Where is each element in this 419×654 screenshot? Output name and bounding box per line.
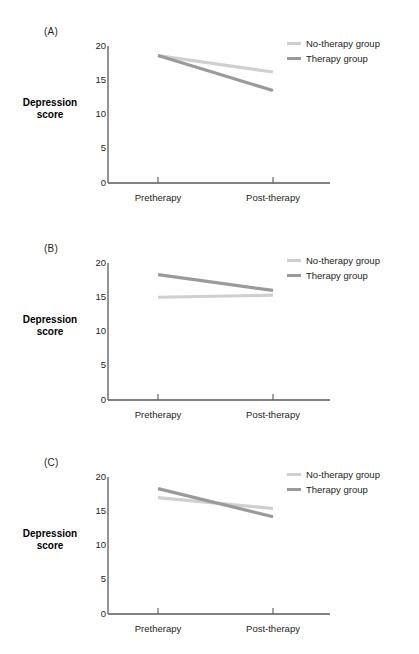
figure-depression-score-panels: (A) Depression score 20 15 10 5 0 Prethe… <box>0 0 419 654</box>
legend-swatch-therapy-icon-c <box>287 488 301 491</box>
legend-swatch-no-therapy-icon-c <box>287 473 301 476</box>
plot-area-c <box>0 431 419 649</box>
legend-a: No-therapy group Therapy group <box>287 36 415 66</box>
legend-item-therapy-b: Therapy group <box>287 268 415 283</box>
legend-item-no-therapy-b: No-therapy group <box>287 253 415 268</box>
series-line-therapy-b <box>158 275 273 291</box>
panel-c: (C) Depression score 20 15 10 5 0 Prethe… <box>0 431 419 649</box>
legend-swatch-therapy-icon-a <box>287 57 301 60</box>
legend-swatch-therapy-icon-b <box>287 274 301 277</box>
legend-label-no-therapy-c: No-therapy group <box>306 469 380 480</box>
legend-swatch-no-therapy-icon-a <box>287 42 301 45</box>
legend-label-therapy-a: Therapy group <box>306 53 368 64</box>
plot-area-b <box>0 217 419 435</box>
legend-c: No-therapy group Therapy group <box>287 467 415 497</box>
legend-label-therapy-b: Therapy group <box>306 270 368 281</box>
legend-label-no-therapy-b: No-therapy group <box>306 255 380 266</box>
plot-area-a <box>0 0 419 218</box>
panel-b: (B) Depression score 20 15 10 5 0 Prethe… <box>0 217 419 435</box>
legend-b: No-therapy group Therapy group <box>287 253 415 283</box>
series-line-therapy-a <box>158 56 273 91</box>
legend-item-no-therapy-c: No-therapy group <box>287 467 415 482</box>
series-line-therapy-c <box>158 489 273 517</box>
legend-label-therapy-c: Therapy group <box>306 484 368 495</box>
legend-item-therapy-a: Therapy group <box>287 51 415 66</box>
legend-item-therapy-c: Therapy group <box>287 482 415 497</box>
panel-a: (A) Depression score 20 15 10 5 0 Prethe… <box>0 0 419 218</box>
series-line-no-therapy-b <box>158 295 273 297</box>
legend-swatch-no-therapy-icon-b <box>287 259 301 262</box>
legend-label-no-therapy-a: No-therapy group <box>306 38 380 49</box>
series-line-no-therapy-a <box>158 56 273 72</box>
legend-item-no-therapy-a: No-therapy group <box>287 36 415 51</box>
